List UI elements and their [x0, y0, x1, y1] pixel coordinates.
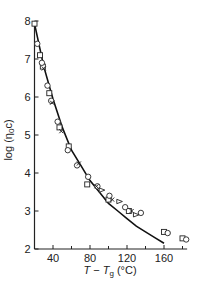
- y-axis-label: log (η0c): [2, 119, 16, 160]
- square-marker: [85, 182, 90, 187]
- circle-marker: [107, 193, 112, 198]
- circle-marker: [48, 98, 53, 103]
- x-axis-label: T − Tg (°C): [83, 264, 136, 278]
- circle-marker: [184, 237, 189, 242]
- circle-marker: [39, 60, 44, 65]
- circle-marker: [45, 83, 50, 88]
- x-tick-label: 120: [118, 252, 136, 264]
- tick-labels: 23456784080120160: [24, 15, 173, 264]
- circle-marker: [85, 174, 90, 179]
- circle-marker: [122, 205, 127, 210]
- y-tick-label: 7: [24, 53, 30, 65]
- y-tick-label: 4: [24, 167, 30, 179]
- circle-marker: [65, 148, 70, 153]
- y-tick-label: 8: [24, 15, 30, 27]
- triangle-marker: [99, 188, 105, 192]
- square-marker: [38, 53, 43, 58]
- triangle-marker: [117, 199, 123, 203]
- x-tick-label: 40: [47, 252, 59, 264]
- square-marker: [47, 91, 52, 96]
- axes: [35, 21, 188, 249]
- y-tick-label: 6: [24, 91, 30, 103]
- y-tick-label: 5: [24, 129, 30, 141]
- circle-marker: [55, 119, 60, 124]
- data-markers: [32, 21, 189, 242]
- square-marker: [32, 21, 37, 26]
- fit-curve: [35, 24, 165, 244]
- y-tick-label: 2: [24, 243, 30, 255]
- x-tick-label: 160: [155, 252, 173, 264]
- x-tick-label: 80: [84, 252, 96, 264]
- y-tick-label: 3: [24, 205, 30, 217]
- circle-marker: [165, 230, 170, 235]
- chart: 23456784080120160 log (η0c) T − Tg (°C): [0, 0, 204, 288]
- circle-marker: [35, 41, 40, 46]
